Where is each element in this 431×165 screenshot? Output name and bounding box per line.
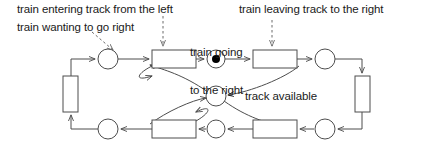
arc-leftside-transition-to-topleft-place: [71, 59, 95, 76]
place-top-right: [315, 49, 335, 69]
transition-go-left: [152, 120, 196, 138]
place-bottom-center: [207, 120, 225, 138]
arc-goright-return-loop: [139, 66, 152, 78]
arc-topright-place-to-rightside-transition: [335, 59, 362, 73]
place-bottom-left: [98, 119, 118, 139]
label-train-going-to-the-left: train going to the left: [176, 139, 229, 165]
place-top-left: [98, 49, 118, 69]
label-train-going-to-the-left-line1: train going: [176, 164, 229, 165]
label-train-wanting-to-go-right: train wanting to go right: [17, 21, 134, 34]
label-track-available: track available: [245, 90, 317, 103]
transition-left-side: [63, 76, 78, 112]
label-train-going-to-the-right-line1: train going: [190, 46, 243, 59]
transition-right-side: [355, 76, 370, 112]
arc-bottomleft-place-to-leftside-transition: [71, 115, 98, 129]
label-train-going-to-the-right: train going to the right: [190, 21, 243, 121]
label-train-entering-track-from-left: train entering track from the left: [17, 3, 173, 16]
arc-rightside-transition-to-bottomright-place: [338, 112, 362, 129]
petri-net-diagram: train entering track from the left train…: [0, 0, 431, 165]
transition-leave-left: [253, 120, 297, 138]
transition-leave-right: [253, 50, 297, 68]
pointer-wanting-right: [92, 32, 113, 50]
label-train-going-to-the-right-line2: to the right: [190, 84, 243, 97]
place-bottom-right: [315, 119, 335, 139]
label-train-leaving-track-to-right: train leaving track to the right: [239, 3, 383, 16]
